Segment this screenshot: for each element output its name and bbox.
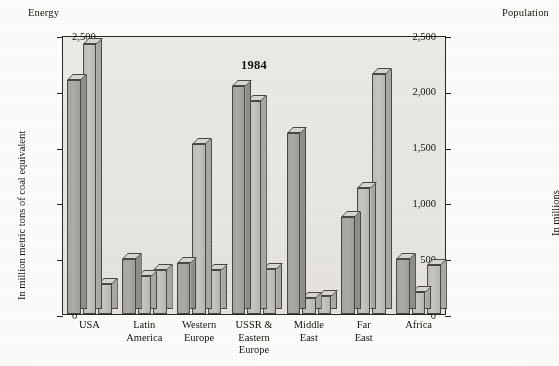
bar-side-face — [410, 254, 416, 309]
figure-canvas: Energy Population In million metric tons… — [0, 0, 559, 366]
left-tick-mark — [57, 316, 63, 317]
right-axis-header: Population — [502, 7, 549, 18]
category-labels: USALatin AmericaWestern EuropeUSSR & Eas… — [62, 319, 446, 363]
left-axis-header: Energy — [28, 7, 59, 18]
bar-side-face — [245, 81, 251, 309]
left-axis-title: In million metric tons of coal equivalen… — [16, 131, 27, 300]
bar — [287, 133, 301, 314]
bar-front-face — [232, 86, 246, 314]
bar-side-face — [112, 279, 118, 309]
bar — [396, 259, 410, 314]
right-tick-mark — [445, 149, 451, 150]
category-label: USSR & Eastern Europe — [227, 319, 282, 357]
bar-group — [177, 37, 222, 314]
category-label: Africa — [391, 319, 446, 332]
bar-group — [122, 37, 167, 314]
right-tick-mark — [445, 93, 451, 94]
bar-front-face — [67, 80, 81, 314]
bar-side-face — [370, 183, 376, 309]
category-label: Western Europe — [172, 319, 227, 344]
bar-front-face — [177, 263, 191, 314]
right-tick-mark — [445, 204, 451, 205]
bar-group — [396, 37, 441, 314]
bar-group — [67, 37, 112, 314]
bar-group — [341, 37, 386, 314]
bar-side-face — [167, 265, 173, 309]
bar-side-face — [276, 264, 282, 309]
bar-group — [232, 37, 277, 314]
bar — [67, 80, 81, 314]
bar-side-face — [96, 39, 102, 309]
bar — [232, 86, 246, 314]
bar-series-container — [63, 37, 445, 314]
bar-side-face — [190, 258, 196, 309]
bar-side-face — [386, 69, 392, 309]
bar — [122, 259, 136, 314]
bar-side-face — [206, 139, 212, 309]
bar-side-face — [441, 260, 447, 309]
category-label: Latin America — [117, 319, 172, 344]
bar-group — [287, 37, 332, 314]
bar-side-face — [300, 128, 306, 309]
bar-side-face — [355, 212, 361, 309]
bar-side-face — [136, 254, 142, 309]
bar-front-face — [341, 217, 355, 314]
bar-front-face — [396, 259, 410, 314]
category-label: USA — [62, 319, 117, 332]
bar-front-face — [287, 133, 301, 314]
right-axis-title: In millions — [550, 190, 559, 236]
bar-side-face — [151, 271, 157, 310]
bar — [177, 263, 191, 314]
bar-side-face — [261, 96, 267, 309]
bar-side-face — [221, 265, 227, 309]
plot-area: 1984 05001,0001,5002,0002,500 05001,0001… — [62, 36, 446, 315]
category-label: Middle East — [281, 319, 336, 344]
category-label: Far East — [336, 319, 391, 344]
bar-side-face — [81, 75, 87, 309]
right-tick-mark — [445, 316, 451, 317]
bar-front-face — [122, 259, 136, 314]
bar — [341, 217, 355, 314]
right-tick-mark — [445, 37, 451, 38]
